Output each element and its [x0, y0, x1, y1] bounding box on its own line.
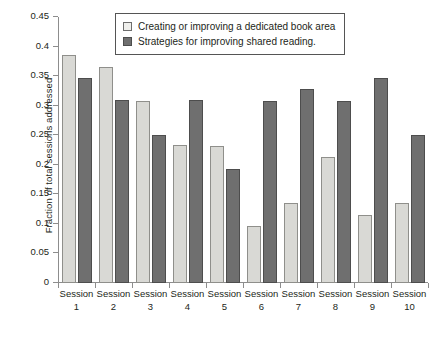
x-axis-tick-label: Session6	[242, 288, 282, 313]
bar-group	[281, 17, 317, 283]
y-axis-tick-label: 0.25	[31, 128, 50, 139]
bar	[300, 89, 314, 283]
x-axis-tick-label: Session3	[131, 288, 171, 313]
y-axis-tick-label: 0.35	[31, 69, 50, 80]
legend-label: Creating or improving a dedicated book a…	[138, 21, 335, 32]
bar	[173, 145, 187, 283]
bar	[226, 169, 240, 283]
bar	[374, 78, 388, 283]
x-axis-tick-labels: Session1Session2Session3Session4Session5…	[58, 288, 428, 322]
bar-chart-figure: Fraction of total sessions addressed 00.…	[0, 0, 436, 340]
bar	[115, 100, 129, 283]
x-axis-tick-label: Session2	[94, 288, 134, 313]
bar	[284, 203, 298, 283]
y-axis-tick-label: 0.05	[31, 246, 50, 257]
bar	[247, 226, 261, 283]
legend-label: Strategies for improving shared reading.	[138, 36, 316, 47]
bar	[395, 203, 409, 283]
y-axis-tick-label: 0.3	[36, 99, 49, 110]
x-axis-tick-label: Session5	[205, 288, 245, 313]
bar	[62, 55, 76, 283]
legend-swatch-icon	[123, 37, 132, 46]
y-axis-tick-label: 0.15	[31, 187, 50, 198]
bar	[337, 101, 351, 283]
legend-entry: Creating or improving a dedicated book a…	[123, 19, 335, 34]
legend-entry: Strategies for improving shared reading.	[123, 34, 335, 49]
bar-group	[392, 17, 428, 283]
y-axis-tick-label: 0.4	[36, 40, 49, 51]
bar	[263, 101, 277, 283]
bar-group	[207, 17, 243, 283]
bar	[136, 101, 150, 283]
bar	[321, 157, 335, 283]
x-axis-tick-label: Session1	[57, 288, 97, 313]
chart-legend: Creating or improving a dedicated book a…	[115, 13, 345, 55]
figure-caption-fragment	[0, 326, 436, 338]
bar-group	[318, 17, 354, 283]
bar-series-container	[58, 17, 428, 283]
x-axis-tick-label: Session4	[168, 288, 208, 313]
bar	[99, 67, 113, 283]
bar-group	[244, 17, 280, 283]
bar	[358, 215, 372, 283]
y-axis-tick-label: 0.1	[36, 217, 49, 228]
y-axis-tick-label: 0.2	[36, 158, 49, 169]
bar-group	[355, 17, 391, 283]
plot-area: 00.050.10.150.20.250.30.350.40.45	[58, 17, 428, 283]
bar	[411, 135, 425, 283]
y-axis-tick-label: 0.45	[31, 10, 50, 21]
bar	[210, 146, 224, 283]
x-axis-tick-label: Session8	[316, 288, 356, 313]
bar	[78, 78, 92, 283]
bar-group	[133, 17, 169, 283]
bar-group	[170, 17, 206, 283]
bar	[189, 100, 203, 283]
legend-swatch-icon	[123, 22, 132, 31]
bar-group	[59, 17, 95, 283]
x-axis-tick-label: Session9	[353, 288, 393, 313]
bar	[152, 135, 166, 283]
x-axis-tick-label: Session10	[390, 288, 430, 313]
bar-group	[96, 17, 132, 283]
y-axis-tick-label: 0	[44, 276, 49, 287]
x-axis-tick-label: Session7	[279, 288, 319, 313]
